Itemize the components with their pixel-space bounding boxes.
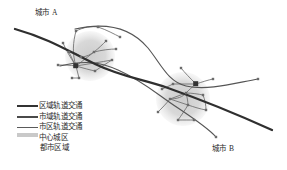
regional-rail-line-swatch [17,105,38,107]
legend-label-central-district: 中心城区 [39,133,68,144]
legend-item-regional-rail: 区域轨道交通 [17,101,109,112]
legend-label-urban-rail: 市区轨道交通 [39,122,82,133]
transit-network-diagram: 城市 A 城市 B 区域轨道交通 市域轨道交通 市区轨道交通 中心城区 [0,0,287,170]
city-b-label: 城市 B [212,145,234,153]
legend: 区域轨道交通 市域轨道交通 市区轨道交通 中心城区 都市区域 [17,101,109,154]
central-district-area-a [65,31,115,81]
urban-rail-line-swatch [17,127,38,128]
city-a-label: 城市 A [35,9,58,17]
legend-item-urban-rail: 市区轨道交通 [17,122,109,133]
suburban-rail-line-swatch [17,116,38,118]
legend-label-regional-rail: 区域轨道交通 [39,101,82,112]
legend-label-suburban-rail: 市域轨道交通 [39,112,82,123]
legend-item-suburban-rail: 市域轨道交通 [17,112,109,123]
central-district-area-swatch [17,133,38,138]
legend-item-central-district: 中心城区 [17,133,109,144]
legend-label-metropolitan-area: 都市区域 [40,143,109,154]
hub-station-city-a [73,63,78,68]
hub-station-city-b [193,81,198,86]
